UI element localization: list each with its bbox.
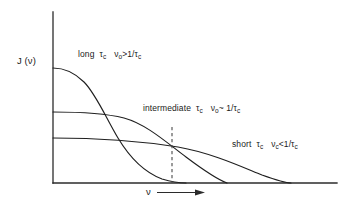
- annotation-short-tau-sub: c: [260, 143, 263, 150]
- x-axis-label-text: ν: [146, 186, 151, 197]
- y-axis-label: J (ν): [17, 55, 36, 66]
- annotation-short-tau-c: shortτcνc<1/τc: [232, 139, 298, 150]
- annotation-intermediate-relation: ~ 1/: [219, 103, 234, 113]
- annotation-long-prefix: long: [78, 49, 94, 59]
- curve-long-tau-c: [53, 68, 186, 183]
- annotation-long-relation: >1/: [122, 49, 134, 59]
- annotation-intermediate-tau-c: intermediateτcνo~ 1/τc: [143, 103, 240, 114]
- y-axis-label-text: J (ν): [17, 55, 36, 66]
- annotation-intermediate-tau-sub: c: [199, 107, 202, 114]
- annotation-long-tau2-sub: c: [138, 53, 141, 60]
- annotation-short-relation: <1/: [279, 139, 291, 149]
- plot-canvas: [0, 0, 350, 203]
- annotation-short-prefix: short: [232, 139, 251, 149]
- annotation-short-tau2-sub: c: [295, 143, 298, 150]
- annotation-intermediate-prefix: intermediate: [143, 103, 191, 113]
- annotation-intermediate-tau2-sub: c: [237, 107, 240, 114]
- annotation-long-tau-sub: c: [103, 53, 106, 60]
- x-axis-label: ν: [146, 186, 151, 197]
- spectral-density-figure: J (ν) ν longτcνo>1/τc intermediateτcνo~ …: [0, 0, 350, 203]
- x-axis-arrow-icon: [157, 188, 207, 197]
- annotation-long-tau-c: longτcνo>1/τc: [78, 49, 141, 60]
- curve-intermediate-tau-c: [53, 112, 227, 183]
